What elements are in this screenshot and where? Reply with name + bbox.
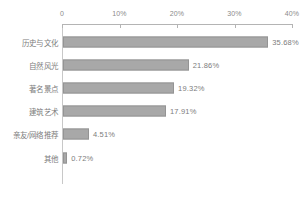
x-tick-label-0: 0 bbox=[60, 10, 64, 17]
x-tick-2 bbox=[177, 24, 178, 28]
value-label-0: 35.68% bbox=[272, 37, 299, 46]
bar-row: 建筑艺术17.91% bbox=[0, 100, 302, 123]
x-tick-label-2: 20% bbox=[170, 10, 185, 17]
bar-0 bbox=[63, 36, 268, 47]
value-label-1: 21.86% bbox=[193, 60, 220, 69]
x-tick-1 bbox=[120, 24, 121, 28]
category-label-5: 其他 bbox=[44, 152, 58, 163]
x-tick-label-3: 30% bbox=[227, 10, 242, 17]
bar-row: 历史与文化35.68% bbox=[0, 30, 302, 53]
bar-row: 亲友/网络推荐4.51% bbox=[0, 123, 302, 146]
bar-chart: 010%20%30%40% 历史与文化35.68%自然风光21.86%著名景点1… bbox=[0, 0, 302, 198]
category-label-0: 历史与文化 bbox=[22, 36, 58, 47]
bar-3 bbox=[63, 106, 166, 117]
x-tick-3 bbox=[235, 24, 236, 28]
category-label-3: 建筑艺术 bbox=[29, 106, 58, 117]
category-label-1: 自然风光 bbox=[29, 59, 58, 70]
bar-2 bbox=[63, 82, 174, 93]
bar-4 bbox=[63, 129, 89, 140]
value-label-3: 17.91% bbox=[170, 107, 197, 116]
bar-1 bbox=[63, 59, 189, 70]
bar-row: 自然风光21.86% bbox=[0, 53, 302, 76]
category-label-2: 著名景点 bbox=[29, 82, 58, 93]
value-label-2: 19.32% bbox=[178, 83, 205, 92]
x-tick-label-1: 10% bbox=[112, 10, 127, 17]
bar-5 bbox=[63, 152, 67, 163]
x-tick-0 bbox=[62, 24, 63, 28]
value-label-4: 4.51% bbox=[93, 130, 115, 139]
bar-row: 其他0.72% bbox=[0, 146, 302, 169]
x-tick-label-4: 40% bbox=[285, 10, 300, 17]
x-tick-4 bbox=[292, 24, 293, 28]
bar-row: 著名景点19.32% bbox=[0, 76, 302, 99]
value-label-5: 0.72% bbox=[71, 153, 93, 162]
category-label-4: 亲友/网络推荐 bbox=[13, 129, 58, 140]
